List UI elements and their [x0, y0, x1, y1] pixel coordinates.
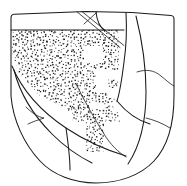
sherd-drawing	[0, 0, 187, 186]
figure-root	[0, 0, 187, 186]
